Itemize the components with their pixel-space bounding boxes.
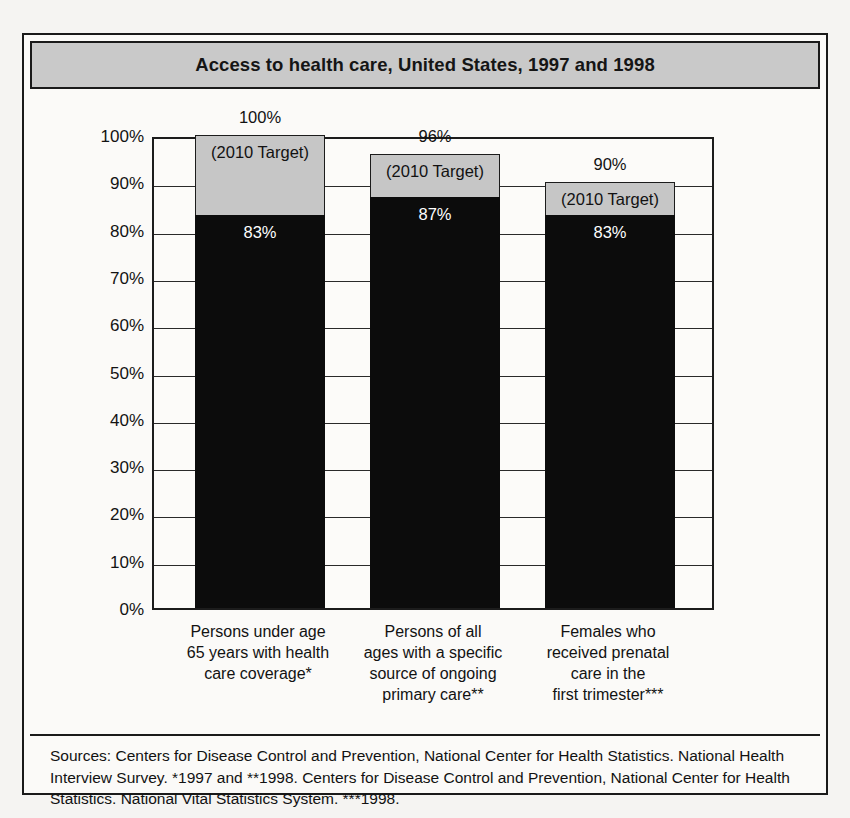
- x-axis-category-labels: Persons under age 65 years with health c…: [152, 621, 714, 721]
- page-title: Access to health care, United States, 19…: [195, 54, 655, 76]
- bar-target-value-2: 96%: [340, 127, 530, 146]
- bar-group-2[interactable]: 96% (2010 Target) 87%: [370, 154, 500, 608]
- y-tick-label: 30%: [24, 458, 144, 478]
- category-line: 65 years with health: [168, 642, 348, 663]
- category-line: Persons of all: [343, 621, 523, 642]
- y-tick-label: 60%: [24, 316, 144, 336]
- y-tick-label: 100%: [24, 127, 144, 147]
- category-label-1: Persons under age 65 years with health c…: [168, 621, 348, 684]
- bar-target-inline-label-3: (2010 Target): [561, 183, 659, 209]
- bar-target-inline-label-2: (2010 Target): [386, 155, 484, 181]
- y-tick-label: 80%: [24, 222, 144, 242]
- bar-actual-value-2: 87%: [418, 197, 451, 224]
- category-label-3: Females who received prenatal care in th…: [518, 621, 698, 705]
- y-axis: 100% 90% 80% 70% 60% 50% 40% 30% 20% 10%…: [24, 137, 144, 610]
- y-tick-label: 0%: [24, 600, 144, 620]
- y-tick-label: 40%: [24, 411, 144, 431]
- y-tick-label: 50%: [24, 364, 144, 384]
- category-line: care in the: [518, 663, 698, 684]
- chart-area: 100% 90% 80% 70% 60% 50% 40% 30% 20% 10%…: [24, 93, 826, 793]
- bar-actual-segment-3: 83%: [545, 215, 675, 608]
- category-line: source of ongoing: [343, 663, 523, 684]
- category-line: Females who: [518, 621, 698, 642]
- bar-target-value-3: 90%: [515, 155, 705, 174]
- category-line: ages with a specific: [343, 642, 523, 663]
- plot-frame: 100% (2010 Target) 83% 96% (2010 Target)…: [152, 137, 714, 610]
- y-tick-label: 20%: [24, 505, 144, 525]
- category-line: Persons under age: [168, 621, 348, 642]
- bar-actual-value-1: 83%: [243, 215, 276, 242]
- bar-group-3[interactable]: 90% (2010 Target) 83%: [545, 182, 675, 608]
- bar-target-value-1: 100%: [165, 108, 355, 127]
- y-tick-label: 70%: [24, 269, 144, 289]
- y-tick-label: 90%: [24, 174, 144, 194]
- bar-group-1[interactable]: 100% (2010 Target) 83%: [195, 135, 325, 608]
- y-tick-label: 10%: [24, 553, 144, 573]
- sources-divider: [30, 734, 820, 736]
- sources-note: Sources: Centers for Disease Control and…: [50, 745, 808, 810]
- bar-actual-segment-1: 83%: [195, 215, 325, 608]
- category-line: first trimester***: [518, 684, 698, 705]
- bar-actual-segment-2: 87%: [370, 197, 500, 609]
- bar-actual-value-3: 83%: [593, 215, 626, 242]
- bar-target-inline-label-1: (2010 Target): [211, 136, 309, 162]
- figure-title-box: Access to health care, United States, 19…: [30, 41, 820, 89]
- category-line: care coverage*: [168, 663, 348, 684]
- category-line: primary care**: [343, 684, 523, 705]
- category-line: received prenatal: [518, 642, 698, 663]
- category-label-2: Persons of all ages with a specific sour…: [343, 621, 523, 705]
- figure-panel: Access to health care, United States, 19…: [22, 33, 828, 795]
